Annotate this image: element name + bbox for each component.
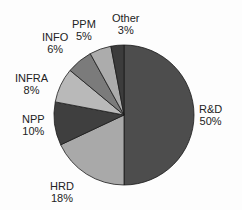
- label-name: PPM: [72, 18, 96, 30]
- pie-slice-rd: [124, 45, 194, 185]
- label-name: INFRA: [15, 72, 48, 84]
- label-name: Other: [112, 12, 140, 24]
- label-rnd: R&D 50%: [199, 103, 222, 127]
- label-pct: 6%: [42, 43, 68, 55]
- label-pct: 50%: [199, 115, 222, 127]
- label-name: NPP: [22, 113, 45, 125]
- label-other: Other 3%: [112, 12, 140, 36]
- label-hrd: HRD 18%: [50, 180, 74, 204]
- label-ppm: PPM 5%: [72, 18, 96, 42]
- label-pct: 18%: [50, 192, 74, 204]
- label-npp: NPP 10%: [22, 113, 45, 137]
- label-name: R&D: [199, 103, 222, 115]
- label-pct: 8%: [15, 84, 48, 96]
- label-pct: 10%: [22, 125, 45, 137]
- label-pct: 3%: [112, 24, 140, 36]
- label-pct: 5%: [72, 30, 96, 42]
- label-info: INFO 6%: [42, 31, 68, 55]
- label-name: HRD: [50, 180, 74, 192]
- label-name: INFO: [42, 31, 68, 43]
- label-infra: INFRA 8%: [15, 72, 48, 96]
